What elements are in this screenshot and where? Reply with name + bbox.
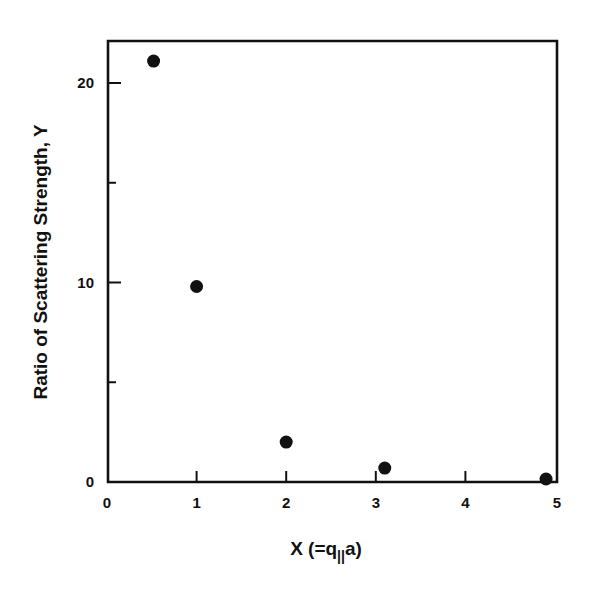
- x-axis-title: X (=q||a): [290, 538, 362, 564]
- x-tick-label: 0: [103, 494, 111, 511]
- data-point: [190, 280, 203, 293]
- scatter-chart: 012345 01020 X (=q||a) Ratio of Scatteri…: [0, 0, 592, 591]
- y-tick-label: 20: [77, 74, 94, 91]
- x-axis-ticks: 012345: [103, 471, 561, 511]
- data-point: [540, 473, 553, 486]
- x-axis-title-subscript: ||: [337, 548, 345, 564]
- plot-border: [108, 41, 557, 482]
- x-tick-label: 3: [372, 494, 380, 511]
- y-axis-title: Ratio of Scattering Strength, Y: [30, 124, 51, 400]
- x-tick-label: 5: [553, 494, 561, 511]
- data-points: [147, 55, 552, 486]
- y-axis-ticks: 01020: [77, 74, 121, 490]
- x-tick-label: 1: [192, 494, 200, 511]
- y-tick-label: 10: [77, 274, 94, 291]
- x-tick-label: 2: [282, 494, 290, 511]
- x-axis-title-tail: a): [345, 538, 362, 559]
- x-axis-title-main: X (=q: [290, 538, 337, 559]
- x-tick-label: 4: [461, 494, 470, 511]
- data-point: [378, 462, 391, 475]
- data-point: [147, 55, 160, 68]
- data-point: [280, 436, 293, 449]
- y-tick-label: 0: [86, 473, 94, 490]
- plot-frame: [108, 41, 557, 482]
